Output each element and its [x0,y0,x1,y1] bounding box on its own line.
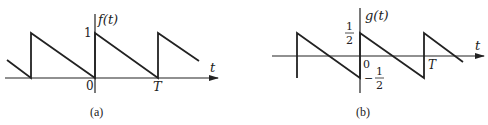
f-label: f(t) [97,12,118,27]
tick-half-den: 2 [346,34,353,47]
caption-b: (b) [356,105,370,119]
tick-T-b: T [428,58,437,72]
tick-neg-sign: − [364,72,373,85]
panel-a: f(t) 1 0 T t (a) [5,12,218,119]
tick-0-b: 0 [363,58,370,71]
tick-0-a: 0 [86,79,94,93]
tick-T-a: T [153,79,163,94]
t-label-a: t [210,60,216,75]
tick-half-num: 1 [346,20,353,33]
figure: f(t) 1 0 T t (a) g(t) 1 2 0 − 1 2 T t (b… [0,0,488,125]
tick-1: 1 [84,26,92,40]
caption-a: (a) [90,105,103,119]
t-label-b: t [475,38,481,53]
sawtooth-f [7,33,199,78]
tick-neghalf-den: 2 [376,79,383,92]
panel-b: g(t) 1 2 0 − 1 2 T t (b) [272,8,484,119]
g-label: g(t) [365,8,389,23]
tick-neghalf-num: 1 [376,65,383,78]
